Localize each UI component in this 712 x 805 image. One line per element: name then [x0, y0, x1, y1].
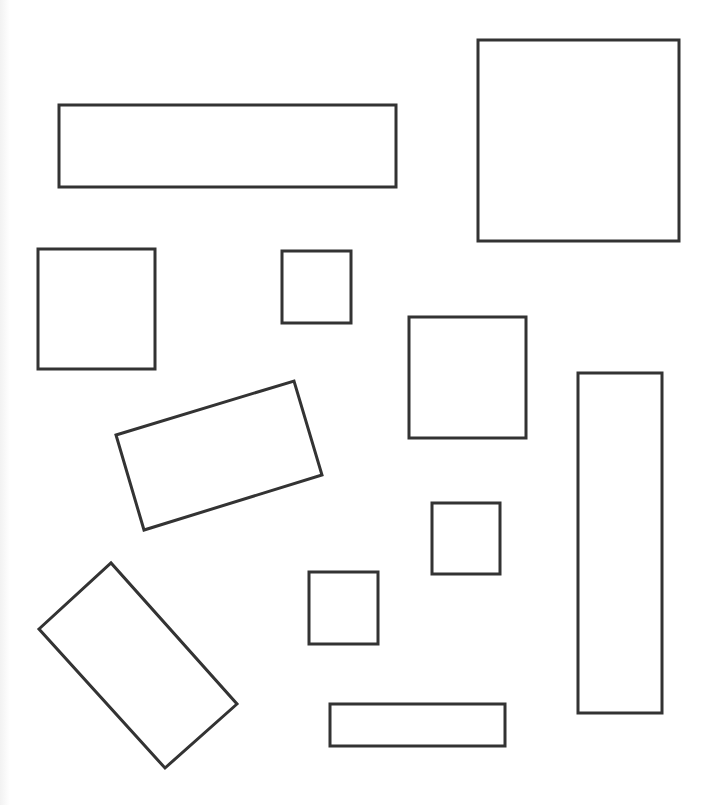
shape-small-square-lower-right — [432, 503, 500, 574]
shape-small-square-lower-center — [309, 572, 378, 644]
shapes-layer — [38, 40, 679, 768]
diagram-canvas — [0, 0, 712, 805]
shape-tilted-rect-center-left — [116, 381, 322, 530]
shape-tall-rect-right — [578, 373, 662, 713]
shape-small-square-center — [282, 251, 351, 323]
shape-medium-square-center-right — [409, 317, 526, 438]
shape-large-square-top-right — [478, 40, 679, 241]
shape-tilted-rect-bottom-left — [39, 563, 237, 768]
shape-flat-rect-bottom — [330, 704, 505, 746]
shape-square-left — [38, 249, 155, 369]
shape-wide-rect-top — [59, 105, 396, 187]
